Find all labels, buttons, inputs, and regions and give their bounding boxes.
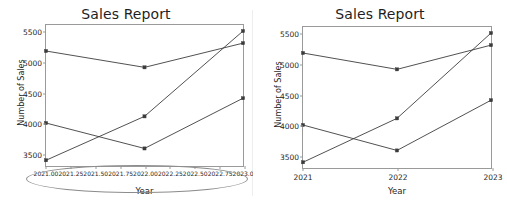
data-point-marker [489, 44, 492, 47]
x-tick-mark-right [303, 168, 304, 171]
y-tick-mark-right [300, 95, 303, 96]
y-tick-mark-left [43, 93, 46, 94]
plot-area-left: 350040004500500055002021.002021.252021.5… [46, 25, 243, 166]
series-group-left [46, 25, 243, 166]
series-line-series-2 [303, 100, 491, 150]
data-point-marker [395, 68, 398, 71]
plot-area-right: 35004000450050005500202120222023 [303, 27, 491, 168]
y-tick-label-right: 3500 [280, 153, 299, 162]
x-tick-mark-left [46, 166, 47, 169]
data-point-marker [143, 115, 146, 118]
data-point-marker [301, 161, 304, 164]
y-tick-label-left: 4500 [23, 89, 42, 98]
x-tick-label-left: 2021.50 [83, 170, 108, 177]
x-tick-label-left: 2021.00 [34, 170, 59, 177]
chart-figure-right: Sales Report Number of Sales 35004000450… [253, 0, 507, 206]
data-point-marker [241, 42, 244, 45]
y-tick-mark-left [43, 32, 46, 33]
x-axis-label-right: Year [302, 186, 492, 196]
series-line-series-2 [46, 98, 243, 148]
data-point-marker [44, 159, 47, 162]
data-point-marker [395, 117, 398, 120]
y-tick-mark-left [43, 155, 46, 156]
x-tick-mark-left [195, 166, 196, 169]
plot-frame-left: 350040004500500055002021.002021.252021.5… [45, 24, 244, 167]
y-tick-label-right: 5000 [280, 61, 299, 70]
x-tick-mark-left [120, 166, 121, 169]
x-tick-label-right: 2023 [483, 173, 502, 182]
data-point-marker [395, 149, 398, 152]
x-tick-label-left: 2021.75 [108, 170, 133, 177]
series-line-series-1 [303, 45, 491, 69]
y-tick-label-left: 4000 [23, 120, 42, 129]
x-tick-mark-right [493, 168, 494, 171]
x-tick-label-right: 2022 [388, 173, 407, 182]
x-tick-mark-left [220, 166, 221, 169]
data-point-marker [301, 51, 304, 54]
series-group-right [303, 27, 491, 168]
y-tick-label-right: 4000 [280, 122, 299, 131]
x-tick-mark-right [398, 168, 399, 171]
data-point-marker [44, 49, 47, 52]
chart-title-right: Sales Report [253, 6, 507, 22]
data-point-marker [241, 97, 244, 100]
y-tick-mark-left [43, 63, 46, 64]
x-axis-label-left: Year [45, 186, 244, 196]
chart-figure-left: Sales Report Number of Sales 35004000450… [0, 0, 252, 206]
chart-title-left: Sales Report [0, 6, 252, 22]
y-tick-mark-right [300, 34, 303, 35]
data-point-marker [241, 29, 244, 32]
x-tick-mark-left [95, 166, 96, 169]
y-tick-label-right: 4500 [280, 91, 299, 100]
y-tick-mark-right [300, 126, 303, 127]
screenshot-canvas: Sales Report Number of Sales 35004000450… [0, 0, 507, 206]
y-tick-label-left: 5000 [23, 59, 42, 68]
data-point-marker [143, 66, 146, 69]
plot-frame-right: 35004000450050005500202120222023 [302, 26, 492, 169]
data-point-marker [489, 31, 492, 34]
y-tick-label-left: 3500 [23, 151, 42, 160]
x-tick-label-right: 2021 [293, 173, 312, 182]
y-tick-label-right: 5500 [280, 30, 299, 39]
x-tick-label-left: 2022.25 [158, 170, 183, 177]
x-tick-mark-left [70, 166, 71, 169]
y-tick-mark-right [300, 157, 303, 158]
y-tick-mark-right [300, 65, 303, 66]
data-point-marker [143, 147, 146, 150]
x-tick-label-left: 2022.75 [208, 170, 233, 177]
x-tick-label-left: 2022.50 [183, 170, 208, 177]
x-tick-label-left: 2022.00 [133, 170, 158, 177]
x-tick-mark-left [245, 166, 246, 169]
series-line-series-1 [46, 43, 243, 67]
y-tick-mark-left [43, 124, 46, 125]
x-tick-mark-left [145, 166, 146, 169]
x-tick-mark-left [170, 166, 171, 169]
y-tick-label-left: 5500 [23, 28, 42, 37]
x-tick-label-left: 2021.25 [58, 170, 83, 177]
data-point-marker [489, 99, 492, 102]
